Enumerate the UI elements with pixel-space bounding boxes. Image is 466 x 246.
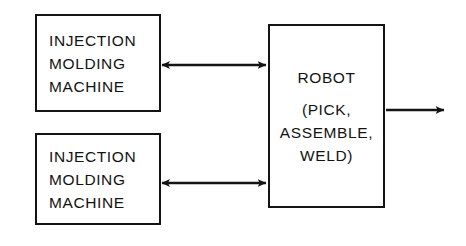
node-label-line: MOLDING — [49, 168, 126, 191]
node-label-line: (PICK, — [270, 98, 383, 121]
node-label-line: ASSEMBLE, — [270, 121, 383, 144]
node-label-line: MACHINE — [49, 191, 125, 214]
node-robot: ROBOT (PICK, ASSEMBLE, WELD) — [268, 24, 385, 208]
node-label-line: INJECTION — [49, 29, 136, 52]
node-label-line: WELD) — [270, 144, 383, 167]
node-injection-molding-machine-top: INJECTION MOLDING MACHINE — [35, 14, 161, 112]
node-label-line: MACHINE — [49, 75, 125, 98]
node-label-line: ROBOT — [270, 66, 383, 89]
node-injection-molding-machine-bottom: INJECTION MOLDING MACHINE — [35, 133, 161, 225]
diagram-canvas: INJECTION MOLDING MACHINE INJECTION MOLD… — [0, 0, 466, 246]
node-label-line: MOLDING — [49, 52, 126, 75]
node-label-line: INJECTION — [49, 145, 136, 168]
